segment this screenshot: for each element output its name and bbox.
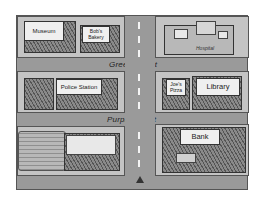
lane-dash bbox=[138, 132, 140, 139]
lane-dash bbox=[138, 22, 140, 29]
block-bottom-right: Bank bbox=[155, 124, 249, 176]
block-top-left: Museum Bob's Bakery bbox=[17, 16, 125, 58]
police-station-sign: Police Station bbox=[56, 79, 102, 95]
hospital-window-right bbox=[218, 31, 228, 39]
lane-dash bbox=[138, 146, 140, 153]
lane-dash bbox=[138, 160, 140, 167]
block-top-right: Hospital bbox=[155, 16, 249, 58]
block-bottom-left bbox=[17, 126, 125, 176]
block-middle-right: Joe's Pizza Library bbox=[155, 71, 249, 113]
pizza-sign: Joe's Pizza bbox=[166, 79, 186, 96]
block-middle-left: Police Station bbox=[17, 71, 125, 113]
you-are-here-icon[interactable] bbox=[136, 176, 144, 183]
hospital-window-left bbox=[174, 29, 188, 39]
town-map: Museum Bob's Bakery Hospital Green Stree… bbox=[16, 15, 248, 190]
lane-dash bbox=[138, 88, 140, 95]
main-road bbox=[125, 16, 155, 189]
museum-sign: Museum bbox=[24, 21, 64, 41]
house-building bbox=[24, 78, 54, 110]
lane-dash bbox=[138, 50, 140, 57]
library-sign: Library bbox=[196, 78, 240, 96]
hospital-tower bbox=[196, 21, 216, 35]
bank-annex-window bbox=[176, 153, 196, 163]
lane-dash bbox=[138, 102, 140, 109]
hospital-label: Hospital bbox=[196, 45, 214, 51]
warehouse-roof bbox=[66, 135, 116, 155]
lane-dash bbox=[138, 36, 140, 43]
lane-dash bbox=[138, 74, 140, 81]
park-area[interactable] bbox=[18, 131, 66, 171]
bakery-sign: Bob's Bakery bbox=[82, 26, 110, 43]
bank-sign: Bank bbox=[180, 129, 220, 145]
